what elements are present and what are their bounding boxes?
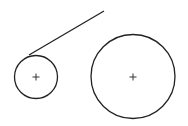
diagram-canvas — [0, 0, 188, 126]
tangent-line — [29, 11, 104, 55]
large-circle-center-mark — [130, 74, 137, 81]
small-circle-center-mark — [33, 74, 40, 81]
